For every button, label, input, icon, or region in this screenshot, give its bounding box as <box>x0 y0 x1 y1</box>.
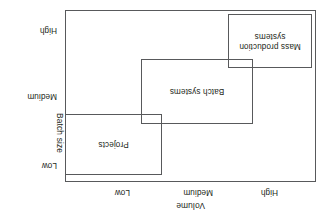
region-box-mass-production-systems[interactable]: Mass production systems <box>228 14 312 68</box>
region-label-mass-production-systems: Mass production systems <box>229 31 311 50</box>
y-axis-title: Batch size <box>55 113 65 165</box>
region-label-mass-production-line1: Mass production <box>239 42 301 51</box>
x-axis-tick-high: High <box>261 188 278 197</box>
region-label-batch-systems: Batch systems <box>142 87 252 97</box>
region-label-mass-production-line2: systems <box>255 32 286 41</box>
region-label-projects: Projects <box>66 140 161 150</box>
x-axis-tick-low: Low <box>115 188 130 197</box>
rotated-figure-group: Projects Batch systems Mass production s… <box>0 0 333 214</box>
x-axis-title: Volume <box>174 201 207 211</box>
y-axis-tick-medium: Medium <box>27 92 57 101</box>
diagram-canvas: Projects Batch systems Mass production s… <box>0 0 333 214</box>
x-axis-tick-medium: Medium <box>183 188 213 197</box>
y-axis-tick-low: Low <box>42 161 57 170</box>
region-box-batch-systems[interactable]: Batch systems <box>141 59 253 124</box>
y-axis-tick-high: High <box>40 26 57 35</box>
